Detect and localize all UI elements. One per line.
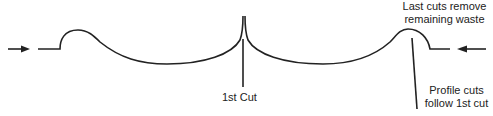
arrow-left-icon — [457, 46, 467, 53]
profile-cuts-line2: follow 1st cut — [420, 97, 493, 110]
first-cut-label: 1st Cut — [222, 91, 257, 104]
profile-cuts-line1: Profile cuts — [420, 84, 493, 97]
arrow-right-icon — [21, 46, 30, 53]
profile-cuts-leader — [412, 38, 417, 109]
last-cuts-label: Last cuts remove remaining waste — [396, 0, 493, 26]
last-cuts-line2: remaining waste — [396, 13, 493, 26]
last-cuts-line1: Last cuts remove — [396, 0, 493, 13]
profile-left — [38, 16, 243, 64]
profile-cuts-label: Profile cuts follow 1st cut — [420, 84, 493, 110]
